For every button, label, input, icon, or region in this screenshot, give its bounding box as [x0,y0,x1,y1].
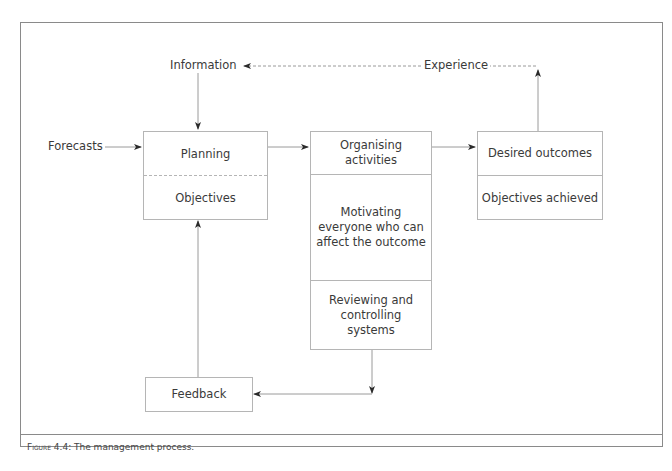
objectives-achieved-label: Objectives achieved [478,176,602,220]
activities-box: Organising activities Motivating everyon… [310,131,432,350]
label-information: Information [168,58,239,72]
motivating-label: Motivating everyone who can affect the o… [311,175,431,280]
planning-box: Planning Objectives [143,131,268,220]
organising-label: Organising activities [311,132,431,174]
label-forecasts: Forecasts [46,139,105,153]
objectives-label: Objectives [144,176,267,220]
feedback-box: Feedback [145,377,253,412]
feedback-label: Feedback [146,378,252,411]
label-experience: Experience [422,58,490,72]
desired-outcomes-label: Desired outcomes [478,132,602,175]
reviewing-label: Reviewing and controlling systems [311,281,431,349]
outcomes-box: Desired outcomes Objectives achieved [477,131,603,220]
planning-label: Planning [144,132,267,176]
